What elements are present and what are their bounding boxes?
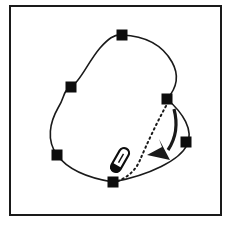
- figure-container: [0, 0, 233, 228]
- control-point-right-upper[interactable]: [162, 94, 173, 105]
- control-point-left-upper[interactable]: [66, 82, 77, 93]
- spline-diagram-canvas: [0, 0, 233, 228]
- control-point-bottom[interactable]: [108, 177, 119, 188]
- control-point-left-lower[interactable]: [52, 150, 63, 161]
- control-point-top[interactable]: [117, 30, 128, 41]
- control-point-right-lower[interactable]: [181, 137, 192, 148]
